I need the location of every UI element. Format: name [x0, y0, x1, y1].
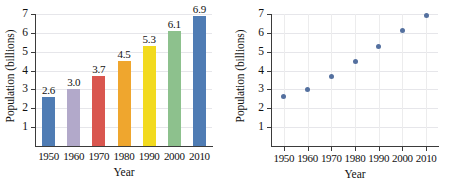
gridline-vertical — [355, 14, 356, 146]
x-tick — [284, 147, 285, 151]
bar-value-label: 3.7 — [84, 63, 114, 75]
bar-1980 — [118, 61, 131, 146]
y-tick-label: 3 — [246, 83, 264, 94]
y-tick-label: 2 — [10, 102, 28, 113]
data-point-1960 — [305, 87, 310, 92]
data-point-2010 — [424, 13, 429, 18]
y-tick-label: 6 — [10, 27, 28, 38]
scatter-chart-x-axis-title: Year — [272, 168, 438, 180]
y-tick-label: 2 — [246, 102, 264, 113]
y-tick-label: 6 — [246, 27, 264, 38]
x-axis-spine — [35, 146, 213, 147]
bar-2010 — [193, 16, 206, 146]
bar-2000 — [168, 31, 181, 146]
x-tick-label: 2010 — [409, 152, 443, 164]
y-axis-spine — [35, 14, 36, 146]
y-tick-label: 5 — [10, 46, 28, 57]
bar-1960 — [67, 89, 80, 146]
y-tick-label: 1 — [10, 121, 28, 132]
gridline-vertical — [426, 14, 427, 146]
y-tick — [31, 127, 35, 128]
data-point-1980 — [353, 59, 358, 64]
y-tick-label: 7 — [10, 8, 28, 19]
x-tick — [331, 147, 332, 151]
bar-value-label: 6.1 — [159, 18, 189, 30]
y-tick — [31, 71, 35, 72]
gridline — [36, 33, 212, 34]
y-tick-label: 4 — [246, 65, 264, 76]
data-point-1990 — [376, 44, 381, 49]
bar-1950 — [42, 97, 55, 146]
y-tick-label: 5 — [246, 46, 264, 57]
y-tick — [267, 108, 271, 109]
x-tick-label: 2010 — [182, 150, 216, 162]
y-tick — [31, 52, 35, 53]
y-tick-label: 1 — [246, 121, 264, 132]
y-tick — [267, 14, 271, 15]
x-tick — [308, 147, 309, 151]
bar-value-label: 6.9 — [184, 3, 214, 15]
bar-1970 — [92, 76, 105, 146]
y-tick — [267, 89, 271, 90]
figure-container: Population (billions) 1234567 1950196019… — [0, 0, 457, 193]
scatter-chart-panel: Population (billions) 1234567 1950196019… — [228, 0, 457, 193]
y-tick — [267, 33, 271, 34]
y-axis-spine — [271, 14, 272, 146]
y-tick — [31, 33, 35, 34]
data-point-1970 — [329, 74, 334, 79]
bar-value-label: 4.5 — [109, 48, 139, 60]
bar-1990 — [143, 46, 156, 146]
x-tick — [426, 147, 427, 151]
scatter-chart-plot-area — [272, 14, 438, 146]
gridline-vertical — [379, 14, 380, 146]
gridline-vertical — [331, 14, 332, 146]
bar-value-label: 3.0 — [59, 76, 89, 88]
y-tick — [267, 52, 271, 53]
bar-value-label: 5.3 — [134, 33, 164, 45]
data-point-1950 — [281, 94, 286, 99]
y-tick — [267, 71, 271, 72]
bar-chart-panel: Population (billions) 1234567 1950196019… — [0, 0, 228, 193]
y-tick-label: 7 — [246, 8, 264, 19]
bar-chart-x-axis-title: Year — [36, 166, 212, 178]
gridline-vertical — [308, 14, 309, 146]
y-tick-label: 3 — [10, 83, 28, 94]
x-tick — [402, 147, 403, 151]
gridline-vertical — [284, 14, 285, 146]
y-tick — [267, 127, 271, 128]
gridline-vertical — [402, 14, 403, 146]
x-tick — [355, 147, 356, 151]
y-tick — [31, 14, 35, 15]
y-tick-label: 4 — [10, 65, 28, 76]
y-tick — [31, 108, 35, 109]
x-tick — [379, 147, 380, 151]
